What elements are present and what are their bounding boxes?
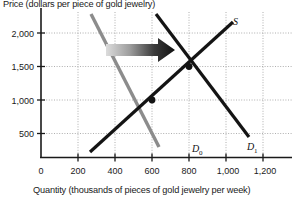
supply-curve-label: S xyxy=(233,16,238,27)
x-tick-label-1000: 1,000 xyxy=(217,166,240,176)
x-axis-title: Quantity (thousands of pieces of gold je… xyxy=(33,185,251,195)
y-tick-label-1000: 1,000 xyxy=(11,96,34,106)
x-tick-label-800: 800 xyxy=(181,166,196,176)
demand0-label-subscript: 0 xyxy=(199,149,203,157)
y-tick-label-2000: 2,000 xyxy=(11,29,34,39)
chart-canvas: 2,000 1,500 1,000 500 0 200 400 600 800 … xyxy=(0,0,299,206)
initial-equilibrium-point xyxy=(149,97,156,104)
demand1-label-subscript: 1 xyxy=(254,147,258,155)
x-tick-label-1200: 1,200 xyxy=(254,166,277,176)
x-tick-label-600: 600 xyxy=(144,166,159,176)
new-equilibrium-point xyxy=(186,63,193,70)
x-tick-label-400: 400 xyxy=(107,166,122,176)
x-tick-label-0: 0 xyxy=(38,166,43,176)
chart-title: Price (dollars per piece of gold jewelry… xyxy=(3,0,155,9)
economics-supply-demand-chart: 2,000 1,500 1,000 500 0 200 400 600 800 … xyxy=(0,0,299,206)
y-tick-label-1500: 1,500 xyxy=(11,62,34,72)
x-tick-label-200: 200 xyxy=(70,166,85,176)
y-tick-label-500: 500 xyxy=(19,129,34,139)
